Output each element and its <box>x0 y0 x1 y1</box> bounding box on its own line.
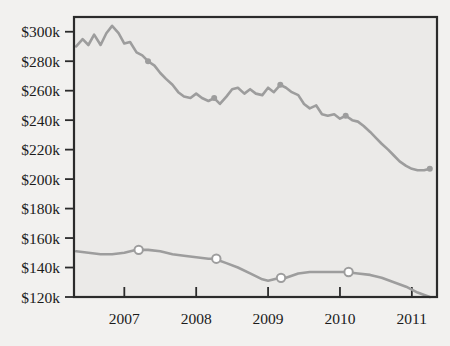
y-axis-label-7: $260k <box>21 82 60 99</box>
y-axis-label-8: $280k <box>21 53 60 70</box>
data-point-marker <box>134 246 142 254</box>
plot-area-background <box>74 17 437 297</box>
y-axis-label-2: $160k <box>21 230 60 247</box>
y-axis-label-3: $180k <box>21 200 60 217</box>
y-axis-label-6: $240k <box>21 112 60 129</box>
x-axis-label-1: 2008 <box>181 310 212 327</box>
data-point-marker <box>212 254 220 262</box>
data-point-marker <box>277 82 283 88</box>
y-axis-label-1: $140k <box>21 259 60 276</box>
x-axis-label-0: 2007 <box>109 310 140 327</box>
y-axis-label-5: $220k <box>21 141 60 158</box>
data-point-marker <box>211 95 217 101</box>
x-axis-label-4: 2011 <box>397 310 427 327</box>
data-point-marker <box>344 268 352 276</box>
y-axis-label-9: $300k <box>21 23 60 40</box>
data-point-marker <box>277 274 285 282</box>
y-axis-label-0: $120k <box>21 289 60 306</box>
y-axis-label-4: $200k <box>21 171 60 188</box>
data-point-marker <box>427 166 433 172</box>
data-point-marker <box>145 58 151 64</box>
line-chart: $120k$140k$160k$180k$200k$220k$240k$260k… <box>0 0 450 346</box>
x-axis-label-2: 2009 <box>253 310 284 327</box>
data-point-marker <box>343 113 349 119</box>
chart-container: $120k$140k$160k$180k$200k$220k$240k$260k… <box>0 0 450 346</box>
x-axis-label-3: 2010 <box>324 310 355 327</box>
